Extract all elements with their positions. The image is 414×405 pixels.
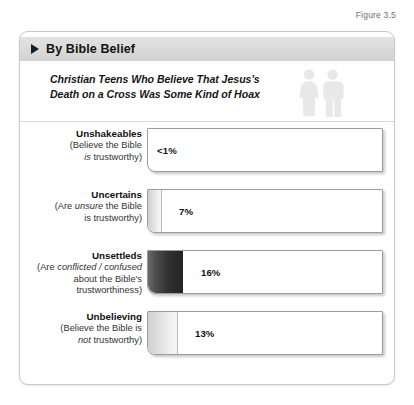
bar-value-label: 7% — [179, 206, 193, 217]
row-category-name: Unbelieving — [24, 311, 142, 323]
desc-post: trustworthy) — [93, 152, 142, 162]
chart-subtitle: Christian Teens Who Believe That Jesus's… — [50, 72, 285, 101]
desc-emphasis: unsure — [75, 201, 103, 211]
bar-track[interactable]: 7% — [147, 189, 383, 233]
female-figure-icon — [299, 69, 318, 116]
row-category-desc: (Believe the Bibleis trustworthy) — [24, 140, 142, 163]
desc-emphasis: is — [84, 152, 91, 162]
row-label-unbelieving: Unbelieving (Believe the Bible isnot tru… — [24, 311, 142, 346]
bar-fill — [148, 251, 183, 293]
row-label-unshakeables: Unshakeables (Believe the Bibleis trustw… — [24, 128, 142, 163]
figure-root: Figure 3.5 By Bible Belief Christian Tee… — [0, 0, 414, 405]
row-category-name: Unshakeables — [24, 128, 142, 140]
bar-fill — [148, 312, 178, 354]
row-category-desc: (Are unsure the Bibleis trustworthy) — [24, 201, 142, 224]
row-label-uncertains: Uncertains (Are unsure the Bibleis trust… — [24, 189, 142, 224]
bar-track[interactable]: 16% — [147, 250, 383, 294]
bar-track[interactable]: <1% — [147, 128, 383, 172]
chart-row-unsettleds: Unsettleds (Are conflicted / confusedabo… — [20, 250, 394, 306]
desc-emphasis: conflicted / confused — [57, 262, 142, 272]
bar-value-label: <1% — [157, 145, 177, 156]
bar-track[interactable]: 13% — [147, 311, 383, 355]
row-category-name: Uncertains — [24, 189, 142, 201]
bar-fill — [148, 190, 162, 232]
subtitle-line-2: Death on a Cross Was Some Kind of Hoax — [50, 88, 260, 100]
desc-pre: (Believe the Bible — [70, 140, 142, 150]
desc-post: trustworthy) — [93, 335, 142, 345]
row-category-name: Unsettleds — [24, 250, 142, 262]
card-header: By Bible Belief — [20, 37, 394, 61]
male-figure-icon — [323, 69, 343, 117]
chart-row-unshakeables: Unshakeables (Believe the Bibleis trustw… — [20, 128, 394, 184]
row-category-desc: (Are conflicted / confusedabout the Bibl… — [24, 262, 142, 297]
triangle-right-icon — [31, 44, 39, 54]
desc-pre: (Believe the Bible is — [60, 323, 142, 333]
bar-value-label: 16% — [201, 267, 221, 278]
subtitle-line-1: Christian Teens Who Believe That Jesus's — [50, 73, 260, 85]
figure-card: By Bible Belief Christian Teens Who Beli… — [19, 31, 395, 385]
chart-row-uncertains: Uncertains (Are unsure the Bibleis trust… — [20, 189, 394, 245]
subtitle-panel: Christian Teens Who Believe That Jesus's… — [20, 61, 394, 122]
chart-rows: Unshakeables (Believe the Bibleis trustw… — [20, 128, 394, 372]
desc-pre: (Are — [55, 201, 73, 211]
row-label-unsettleds: Unsettleds (Are conflicted / confusedabo… — [24, 250, 142, 297]
two-people-icon — [296, 67, 348, 117]
row-category-desc: (Believe the Bible isnot trustworthy) — [24, 323, 142, 346]
chart-row-unbelieving: Unbelieving (Believe the Bible isnot tru… — [20, 311, 394, 367]
figure-caption: Figure 3.5 — [356, 10, 396, 20]
bar-value-label: 13% — [195, 328, 215, 339]
desc-pre: (Are — [37, 262, 55, 272]
desc-emphasis: not — [78, 335, 91, 345]
card-header-title: By Bible Belief — [46, 42, 135, 56]
